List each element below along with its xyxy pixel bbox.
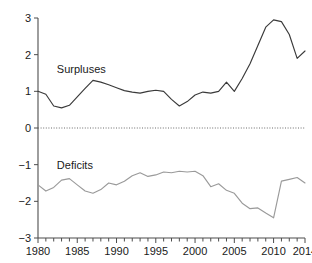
y-tick-label: 0 <box>25 122 31 134</box>
plot-background <box>0 0 312 263</box>
x-tick-label: 2000 <box>183 245 207 257</box>
x-tick-label: 1980 <box>26 245 50 257</box>
x-tick-label: 1995 <box>144 245 168 257</box>
y-tick-label: −3 <box>18 232 31 244</box>
surplus-deficit-line-chart: 3210−1−2−3 19801985199019952000200520102… <box>0 0 312 263</box>
x-tick-label: 2014 <box>293 245 312 257</box>
y-tick-label: −1 <box>18 159 31 171</box>
y-tick-label: 3 <box>25 12 31 24</box>
x-tick-label: 1990 <box>104 245 128 257</box>
chart-container: 3210−1−2−3 19801985199019952000200520102… <box>0 0 312 263</box>
y-tick-label: 1 <box>25 85 31 97</box>
x-tick-label: 1985 <box>65 245 89 257</box>
y-tick-label: 2 <box>25 49 31 61</box>
x-tick-label: 2005 <box>222 245 246 257</box>
x-tick-label: 2010 <box>261 245 285 257</box>
annotation-deficits: Deficits <box>57 159 94 171</box>
annotation-surpluses: Surpluses <box>57 63 106 75</box>
y-tick-label: −2 <box>18 195 31 207</box>
